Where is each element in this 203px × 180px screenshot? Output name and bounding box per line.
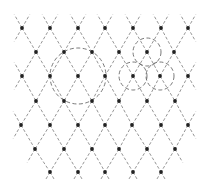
lattice-line	[188, 28, 196, 41]
lattice-line	[78, 52, 92, 76]
lattice-point	[173, 147, 177, 151]
lattice-point	[131, 170, 135, 174]
lattice-line	[174, 28, 188, 52]
lattice-line	[105, 52, 119, 76]
lattice-line	[22, 76, 36, 101]
lattice-point	[34, 99, 38, 103]
lattice-line	[92, 149, 105, 172]
lattice-line	[153, 15, 161, 28]
lattice-lines	[13, 15, 195, 180]
lattice-line	[161, 125, 175, 149]
lattice-line	[21, 101, 36, 125]
lattice-point	[131, 74, 135, 78]
lattice-line	[161, 101, 175, 125]
lattice-line	[22, 15, 30, 28]
lattice-point	[90, 147, 94, 151]
lattice-line	[174, 52, 188, 76]
lattice-line	[42, 15, 50, 28]
lattice-line	[35, 149, 50, 172]
lattice-line	[161, 15, 169, 28]
lattice-line	[78, 149, 92, 172]
lattice-line	[105, 28, 119, 52]
lattice-line	[78, 15, 86, 28]
lattice-line	[50, 101, 64, 125]
lattice-line	[188, 112, 196, 125]
lattice-line	[27, 149, 35, 162]
lattice-line	[105, 76, 119, 101]
lattice-points	[19, 26, 190, 174]
lattice-line	[147, 149, 161, 172]
lattice-point	[159, 170, 163, 174]
lattice-point	[76, 170, 80, 174]
lattice-point	[131, 26, 135, 30]
lattice-line	[188, 76, 196, 89]
lattice-point	[76, 123, 80, 127]
lattice-point	[20, 74, 24, 78]
lattice-point	[90, 50, 94, 54]
lattice-point	[117, 50, 121, 54]
lattice-line	[22, 28, 36, 52]
lattice-line	[78, 101, 92, 125]
lattice-point	[173, 99, 177, 103]
lattice-point	[103, 74, 107, 78]
lattice-point	[159, 26, 163, 30]
lattice-line	[64, 125, 78, 149]
lattice-point	[62, 50, 66, 54]
lattice-point	[130, 123, 134, 127]
lattice-point	[103, 123, 107, 127]
lattice-line	[92, 28, 105, 52]
lattice-point	[145, 99, 149, 103]
lattice-line	[50, 52, 64, 76]
lattice-point	[172, 50, 176, 54]
lattice-line	[133, 149, 147, 172]
lattice-line	[78, 125, 92, 149]
lattice-line	[22, 52, 36, 76]
lattice-point	[145, 147, 149, 151]
lattice-line	[64, 52, 78, 76]
lattice-line	[14, 63, 22, 76]
lattice-point	[117, 147, 121, 151]
lattice-line	[105, 15, 113, 28]
lattice-line	[119, 149, 133, 172]
lattice-line	[50, 125, 64, 149]
lattice-line	[92, 125, 105, 149]
lattice-point	[48, 170, 52, 174]
lattice-line	[92, 76, 105, 101]
lattice-point	[186, 74, 190, 78]
lattice-point	[48, 26, 52, 30]
lattice-line	[64, 76, 78, 101]
lattice-line	[92, 101, 105, 125]
lattice-diagram	[0, 0, 203, 180]
lattice-line	[147, 125, 161, 149]
lattice-line	[188, 15, 196, 28]
lattice-line	[133, 28, 147, 52]
lattice-point	[19, 123, 23, 127]
lattice-point	[159, 123, 163, 127]
lattice-line	[188, 63, 196, 76]
lattice-line	[35, 125, 50, 149]
lattice-line	[105, 101, 119, 125]
lattice-line	[64, 149, 78, 172]
lattice-line	[180, 15, 188, 28]
lattice-point	[158, 74, 162, 78]
lattice-line	[36, 28, 50, 52]
lattice-line	[119, 52, 133, 76]
lattice-line	[119, 125, 132, 149]
lattice-point	[62, 99, 66, 103]
lattice-point	[103, 170, 107, 174]
lattice-point	[103, 26, 107, 30]
lattice-line	[36, 101, 50, 125]
lattice-line	[50, 149, 64, 172]
lattice-line	[36, 76, 50, 101]
lattice-line	[188, 125, 196, 138]
lattice-point	[48, 123, 52, 127]
lattice-line	[160, 76, 175, 101]
lattice-line	[50, 76, 64, 101]
lattice-point	[76, 74, 80, 78]
lattice-point	[34, 50, 38, 54]
lattice-line	[14, 15, 22, 28]
lattice-line	[13, 125, 21, 138]
lattice-line	[175, 149, 183, 162]
lattice-line	[147, 101, 161, 125]
lattice-point	[20, 26, 24, 30]
